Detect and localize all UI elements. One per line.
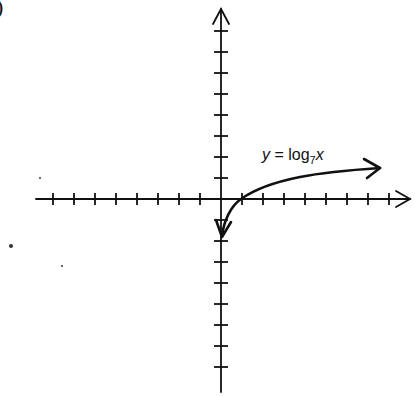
equation-fn: log (288, 146, 309, 163)
stray-dot (9, 244, 13, 248)
equation-lhs: y (262, 146, 270, 163)
coordinate-plane (0, 0, 415, 396)
stray-dot (61, 265, 63, 267)
equation-equals: = (270, 146, 288, 163)
stray-dot (39, 177, 41, 179)
log-curve (222, 168, 380, 236)
equation-label: y = log7x (262, 146, 324, 166)
equation-arg: x (316, 146, 324, 163)
